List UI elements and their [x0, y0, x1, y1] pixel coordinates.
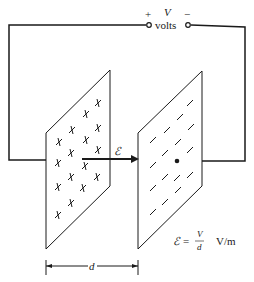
- plus-sign: +: [145, 8, 151, 20]
- formula-equals: =: [183, 235, 189, 247]
- formula-units: V/m: [216, 235, 236, 247]
- voltage-symbol: V: [164, 6, 172, 18]
- volts-label: volts: [155, 19, 176, 31]
- separation-symbol: d: [89, 260, 95, 272]
- positive-terminal: [147, 23, 152, 28]
- diagram-svg: + V − volts: [0, 0, 254, 282]
- dimension-arrow-left: [46, 264, 52, 268]
- formula-denominator: d: [197, 242, 202, 252]
- field-symbol: ℰ: [114, 145, 122, 157]
- dimension-arrow-right: [132, 264, 138, 268]
- parallel-plate-capacitor-diagram: + V − volts: [0, 0, 254, 282]
- field-formula: ℰ = V d V/m: [173, 229, 236, 252]
- contact-dot: [175, 159, 180, 164]
- formula-lhs: ℰ: [173, 235, 181, 247]
- formula-numerator: V: [197, 229, 204, 239]
- minus-sign: −: [184, 8, 190, 20]
- negative-terminal: [186, 23, 191, 28]
- negative-plate: [138, 71, 202, 249]
